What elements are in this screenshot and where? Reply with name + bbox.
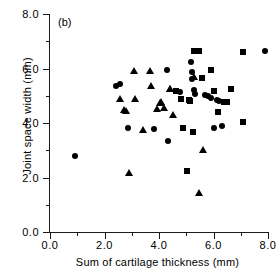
- x-tick-minor: [132, 233, 133, 236]
- data-point-triangle: [146, 67, 154, 74]
- data-point-triangle: [122, 107, 130, 114]
- y-tick-label: 6.0: [0, 64, 39, 75]
- data-point-circle: [165, 138, 171, 144]
- data-point-circle: [211, 125, 217, 131]
- data-point-triangle: [160, 104, 168, 111]
- data-point-square: [196, 48, 202, 54]
- data-point-square: [208, 67, 214, 73]
- x-tick-minor: [186, 233, 187, 236]
- data-point-triangle: [130, 67, 138, 74]
- data-point-square: [187, 98, 193, 104]
- data-point-square: [173, 88, 179, 94]
- x-tick-minor: [241, 233, 242, 236]
- y-tick-minor: [46, 41, 49, 42]
- x-tick-label: 4.0: [139, 240, 179, 251]
- data-point-triangle: [125, 169, 133, 176]
- y-tick-label: 8.0: [0, 9, 39, 20]
- y-tick: [43, 69, 49, 70]
- data-point-circle: [219, 123, 225, 129]
- y-tick: [43, 123, 49, 124]
- data-point-square: [180, 125, 186, 131]
- data-point-triangle: [199, 146, 207, 153]
- data-point-triangle: [169, 111, 177, 118]
- data-point-circle: [192, 91, 198, 97]
- data-point-triangle: [147, 82, 155, 89]
- y-axis-title: Joint space width (mm): [21, 26, 33, 206]
- data-point-square: [240, 119, 246, 125]
- plot-area: [50, 14, 268, 232]
- scatter-plot-figure: (b) 0.02.04.06.08.00.02.04.06.08.0 Sum o…: [0, 0, 279, 274]
- x-tick-minor: [77, 233, 78, 236]
- data-point-square: [240, 49, 246, 55]
- data-point-triangle: [139, 126, 147, 133]
- x-tick-label: 0.0: [30, 240, 70, 251]
- y-tick-label: 0.0: [0, 227, 39, 238]
- y-tick: [43, 178, 49, 179]
- x-tick-label: 8.0: [248, 240, 279, 251]
- x-axis-title: Sum of cartilage thickness (mm): [40, 256, 275, 268]
- data-point-square: [228, 86, 234, 92]
- y-tick-minor: [46, 150, 49, 151]
- data-point-square: [224, 99, 230, 105]
- data-point-square: [199, 75, 205, 81]
- data-point-triangle: [131, 95, 139, 102]
- data-point-square: [190, 129, 196, 135]
- data-point-square: [178, 96, 184, 102]
- data-point-square: [215, 109, 221, 115]
- data-point-square: [211, 88, 217, 94]
- y-tick-label: 2.0: [0, 173, 39, 184]
- data-point-triangle: [116, 95, 124, 102]
- y-tick-minor: [46, 205, 49, 206]
- y-tick: [43, 232, 49, 233]
- data-point-circle: [262, 48, 268, 54]
- y-tick-label: 4.0: [0, 118, 39, 129]
- x-tick-label: 6.0: [194, 240, 234, 251]
- data-point-triangle: [190, 73, 198, 80]
- data-point-triangle: [195, 189, 203, 196]
- x-tick-label: 2.0: [85, 240, 125, 251]
- data-point-circle: [72, 153, 78, 159]
- data-point-circle: [164, 67, 170, 73]
- data-point-square: [184, 168, 190, 174]
- y-tick: [43, 14, 49, 15]
- y-tick-minor: [46, 96, 49, 97]
